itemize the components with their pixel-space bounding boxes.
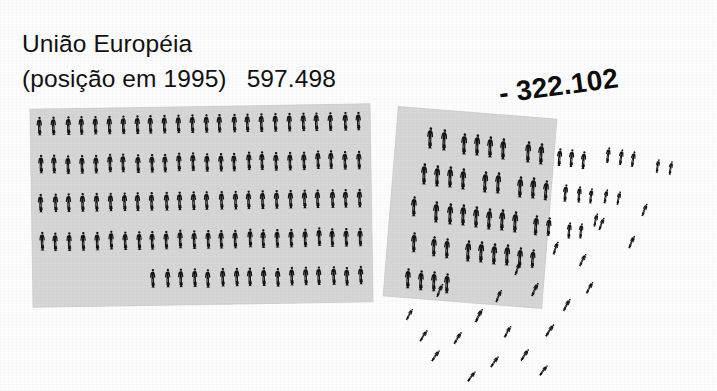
pictogram-figure [579, 151, 588, 170]
pictogram-figure [452, 331, 464, 346]
pictogram-figure [246, 229, 254, 248]
pictogram-figure [135, 231, 143, 250]
pictogram-figure [416, 270, 425, 291]
pictogram-figure [230, 114, 238, 133]
pictogram-figure [37, 155, 45, 174]
pictogram-figure [602, 188, 611, 203]
pictogram-figure [161, 115, 169, 134]
pictogram-figure [233, 268, 241, 287]
pictogram-figure [458, 168, 468, 190]
pictogram-figure [133, 115, 141, 134]
pictogram-figure [302, 266, 310, 285]
pictogram-figure [493, 172, 503, 194]
pictogram-figure [245, 151, 253, 170]
pictogram-figure [37, 193, 45, 212]
pictogram-figure [473, 308, 486, 324]
pictogram-figure [489, 355, 501, 369]
pictogram-figure [203, 152, 211, 171]
pictogram-figure [121, 192, 129, 211]
pictogram-figure [191, 269, 199, 288]
pictogram-figure [177, 269, 185, 288]
pictogram-figure [476, 241, 486, 263]
pictogram-figure [217, 191, 225, 210]
pictogram-figure [79, 154, 87, 173]
pictogram-figure [343, 227, 351, 246]
pictogram-figure [147, 115, 155, 134]
pictogram-figure [536, 143, 546, 165]
pictogram-figure [484, 208, 494, 230]
pictogram-figure [628, 150, 637, 167]
pictogram-figure [50, 116, 58, 135]
pictogram-figure [544, 217, 554, 237]
pictogram-figure [174, 114, 182, 133]
pictogram-figure [584, 281, 596, 295]
chart-title-line-2: (posição em 1995)597.498 [22, 63, 336, 95]
pictogram-figure [561, 184, 570, 202]
pictogram-figure [531, 214, 541, 235]
pictogram-figure [587, 188, 595, 204]
pictogram-figure [36, 116, 44, 135]
pictogram-figure [163, 230, 171, 249]
pictogram-figure [494, 288, 505, 303]
pictogram-figure [204, 268, 212, 287]
pictogram-figure [38, 232, 46, 251]
pictogram-figure [245, 190, 253, 209]
pictogram-figure [203, 191, 211, 210]
pictogram-figure [471, 206, 481, 228]
pictogram-figure [341, 150, 349, 169]
pictogram-figure [119, 115, 127, 134]
pictogram-figure [149, 269, 157, 288]
pictogram-figure [232, 229, 240, 248]
pictogram-figure [355, 112, 363, 131]
pictogram-figure [341, 112, 349, 131]
pictogram-figure [640, 203, 650, 218]
pictogram-figure [330, 266, 338, 285]
pictogram-figure [513, 260, 524, 276]
pictogram-figure [528, 249, 538, 269]
pictogram-figure [404, 307, 415, 321]
pictogram-figure [259, 229, 267, 248]
pictogram-figure [190, 230, 198, 249]
pictogram-figure [314, 189, 322, 208]
pictogram-figure [148, 153, 156, 172]
pictogram-figure [272, 190, 280, 209]
pictogram-figure [175, 153, 183, 172]
pictogram-figure [342, 189, 350, 208]
pictogram-figure [459, 133, 469, 155]
pictogram-figure [551, 240, 561, 255]
chart-total-value: 597.498 [247, 65, 336, 92]
pictogram-figure [203, 114, 211, 133]
pictogram-figure [615, 191, 624, 206]
pictogram-figure [654, 159, 662, 174]
pictogram-figure [78, 116, 86, 135]
pictogram-figure [244, 113, 252, 132]
pictogram-figure [667, 161, 675, 176]
pictogram-figure [425, 127, 435, 149]
pictogram-figure [565, 221, 574, 238]
pictogram-figure [313, 112, 321, 131]
pictogram-figure [445, 166, 455, 188]
pictogram-figure [409, 232, 418, 253]
pictogram-figure [259, 190, 267, 209]
pictogram-figure [429, 236, 438, 257]
pictogram-figure [419, 163, 429, 185]
pictogram-figure [50, 155, 58, 174]
pictogram-figure [418, 329, 430, 343]
pictogram-figure [134, 153, 142, 172]
pictogram-figure [329, 227, 337, 246]
pictogram-figure [216, 114, 224, 133]
pictogram-figure [218, 229, 226, 248]
pictogram-figure [246, 267, 254, 286]
pictogram-figure [357, 265, 365, 284]
pictogram-figure [274, 228, 282, 247]
pictogram-figure [442, 238, 451, 259]
pictogram-figure [541, 179, 551, 200]
pictogram-figure [463, 240, 473, 262]
pictogram-figure [92, 154, 100, 173]
pictogram-figure [79, 193, 87, 212]
pictogram-figures-main [29, 103, 373, 307]
pictogram-figure [299, 113, 307, 132]
pictogram-figure [466, 369, 478, 382]
pictogram-figure [561, 297, 573, 312]
pictogram-figure [161, 153, 169, 172]
